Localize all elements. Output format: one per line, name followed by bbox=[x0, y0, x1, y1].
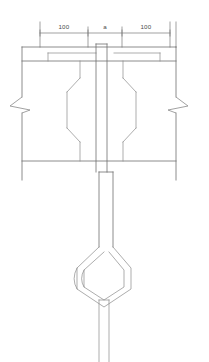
dimension-chain: 100 a 100 bbox=[40, 22, 176, 47]
void-left-lower-chamfer bbox=[67, 128, 80, 142]
loop-outer-curve-left bbox=[74, 268, 77, 289]
break-zigzag-right bbox=[168, 97, 188, 113]
void-right-upper-chamfer bbox=[123, 78, 136, 92]
dimension-label-middle: a bbox=[103, 23, 107, 30]
diamond-loop bbox=[74, 247, 131, 307]
void-right-lower-chamfer bbox=[123, 128, 136, 142]
cad-drawing: 100 a 100 bbox=[0, 0, 209, 362]
dimension-label-left: 100 bbox=[58, 23, 69, 30]
center-stem bbox=[96, 44, 107, 172]
dimension-label-right: 100 bbox=[140, 23, 151, 30]
technical-drawing-canvas: 100 a 100 bbox=[0, 0, 209, 362]
top-plate bbox=[48, 53, 160, 61]
chamfered-void-right bbox=[123, 61, 136, 161]
void-left-upper-chamfer bbox=[67, 78, 80, 92]
loop-inner-path bbox=[84, 252, 124, 300]
loop-inner-curve-left bbox=[82, 270, 85, 287]
stem-step bbox=[99, 172, 113, 247]
chamfered-void-left bbox=[67, 61, 80, 161]
lower-shaft bbox=[99, 300, 109, 362]
break-zigzag-left bbox=[10, 97, 30, 113]
slab-body bbox=[22, 47, 176, 180]
break-line-right bbox=[168, 97, 188, 113]
break-line-left bbox=[10, 97, 30, 113]
loop-outer-path bbox=[77, 247, 131, 307]
